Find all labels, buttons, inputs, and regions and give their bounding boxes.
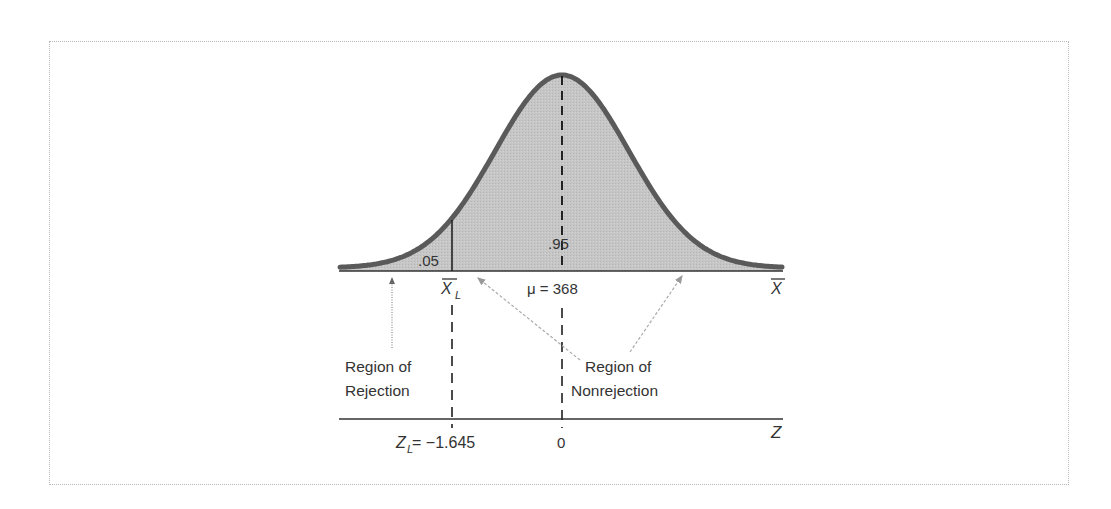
svg-text:Nonrejection: Nonrejection	[571, 382, 658, 399]
area-label-nonrejection: .95	[548, 235, 569, 252]
z-zero-label: 0	[557, 434, 565, 451]
nonrejection-arrow-right	[630, 276, 682, 352]
svg-text:Region of: Region of	[345, 358, 412, 375]
svg-text:Rejection: Rejection	[345, 382, 410, 399]
xbar-axis-label: X	[770, 279, 785, 297]
nonrejection-region-label: Region of Nonrejection	[571, 358, 658, 399]
svg-text:Z: Z	[395, 434, 407, 451]
svg-text:= −1.645: = −1.645	[412, 434, 475, 451]
hypothesis-test-chart: .05 .95 X L μ = 368 X Region of Rejectio…	[0, 0, 1111, 509]
mean-label: μ = 368	[527, 280, 578, 297]
critical-z-label: Z L = −1.645	[395, 434, 475, 455]
rejection-region-label: Region of Rejection	[345, 358, 412, 399]
z-axis-label: Z	[770, 423, 782, 442]
svg-text:L: L	[455, 289, 461, 301]
svg-text:X: X	[440, 280, 453, 297]
svg-text:X: X	[770, 280, 783, 297]
area-label-rejection: .05	[418, 252, 439, 269]
xbar-l-label: X L	[440, 279, 461, 301]
svg-text:Region of: Region of	[585, 358, 652, 375]
